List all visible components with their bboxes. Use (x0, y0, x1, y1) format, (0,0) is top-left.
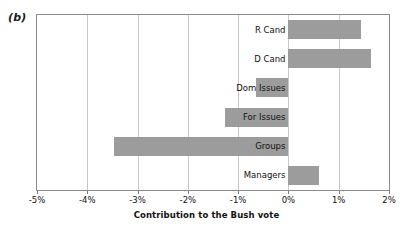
x-tick-label: -1% (230, 195, 247, 205)
panel-letter-label: (b) (8, 11, 27, 24)
plot-area: R CandD CandDom IssuesFor IssuesGroupsMa… (36, 14, 390, 191)
x-tick-label: -4% (79, 195, 96, 205)
bar-row: Dom Issues (37, 73, 389, 102)
figure-panel-b: (b) R CandD CandDom IssuesFor IssuesGrou… (0, 0, 413, 232)
x-tick-mark (288, 191, 289, 194)
x-tick-mark (138, 191, 139, 194)
category-label-dom-issues: Dom Issues (236, 81, 285, 95)
x-tick-mark (87, 191, 88, 194)
bar-series: R CandD CandDom IssuesFor IssuesGroupsMa… (37, 15, 389, 190)
category-label-for-issues: For Issues (243, 110, 285, 124)
x-tick-mark (188, 191, 189, 194)
x-axis-title: Contribution to the Bush vote (0, 210, 413, 220)
bar (288, 20, 361, 39)
x-tick-mark (389, 191, 390, 194)
x-tick-label: 2% (382, 195, 396, 205)
x-tick-mark (339, 191, 340, 194)
category-label-r-cand: R Cand (255, 23, 286, 37)
x-tick-label: -5% (29, 195, 46, 205)
category-label-groups: Groups (255, 139, 285, 153)
x-tick-mark (37, 191, 38, 194)
bar-row: Managers (37, 161, 389, 190)
x-tick-label: 0% (282, 195, 296, 205)
category-label-managers: Managers (244, 168, 286, 182)
x-tick-label: 1% (332, 195, 346, 205)
bar (288, 49, 371, 68)
x-tick-label: -3% (129, 195, 146, 205)
x-tick-label: -2% (180, 195, 197, 205)
x-axis: -5%-4%-3%-2%-1%0%1%2% (36, 191, 390, 209)
bar (288, 166, 318, 185)
bar-row: Groups (37, 132, 389, 161)
category-label-d-cand: D Cand (254, 52, 285, 66)
x-tick-mark (238, 191, 239, 194)
bar-row: D Cand (37, 44, 389, 73)
bar-row: R Cand (37, 15, 389, 44)
bar-row: For Issues (37, 103, 389, 132)
